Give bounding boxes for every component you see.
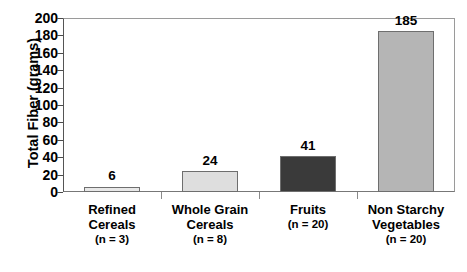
y-tick-label: 60 bbox=[16, 133, 58, 147]
y-tick-mark bbox=[57, 192, 63, 193]
bar-group: 41 bbox=[259, 18, 357, 192]
x-tick-mark bbox=[161, 192, 162, 199]
bar-value-label: 41 bbox=[300, 139, 315, 153]
bar-value-label: 24 bbox=[202, 154, 217, 168]
y-tick-mark bbox=[57, 18, 63, 19]
y-tick-mark bbox=[57, 88, 63, 89]
x-axis-category-name: Fruits bbox=[259, 202, 357, 217]
y-tick-label: 160 bbox=[16, 46, 58, 60]
bar-group: 185 bbox=[357, 18, 455, 192]
y-tick-label: 120 bbox=[16, 81, 58, 95]
y-tick-label: 80 bbox=[16, 115, 58, 129]
x-axis-category-count: (n = 3) bbox=[63, 232, 161, 247]
x-axis-category-name: Vegetables bbox=[357, 217, 455, 232]
bar[interactable] bbox=[84, 187, 140, 192]
bar-value-label: 185 bbox=[395, 14, 418, 28]
x-axis-category-count: (n = 8) bbox=[161, 232, 259, 247]
y-tick-mark bbox=[57, 157, 63, 158]
x-axis-category-labels: RefinedCereals(n = 3)Whole GrainCereals(… bbox=[63, 202, 455, 270]
bar[interactable] bbox=[378, 31, 434, 192]
y-tick-mark bbox=[57, 122, 63, 123]
x-axis-category-count: (n = 20) bbox=[357, 232, 455, 247]
x-axis-category: Whole GrainCereals(n = 8) bbox=[161, 202, 259, 247]
x-axis-category-name: Non Starchy bbox=[357, 202, 455, 217]
x-axis-category-count: (n = 20) bbox=[259, 217, 357, 232]
y-tick-label: 180 bbox=[16, 28, 58, 42]
y-tick-mark bbox=[57, 53, 63, 54]
bar-group: 24 bbox=[161, 18, 259, 192]
y-tick-label: 0 bbox=[16, 185, 58, 199]
bar-group: 6 bbox=[63, 18, 161, 192]
y-tick-label: 200 bbox=[16, 11, 58, 25]
y-tick-label: 40 bbox=[16, 150, 58, 164]
x-axis-category: RefinedCereals(n = 3) bbox=[63, 202, 161, 247]
x-tick-mark bbox=[357, 192, 358, 199]
bar[interactable] bbox=[182, 171, 238, 192]
y-tick-mark bbox=[57, 175, 63, 176]
bars-layer: 62441185 bbox=[63, 18, 455, 192]
y-tick-mark bbox=[57, 35, 63, 36]
bar[interactable] bbox=[280, 156, 336, 192]
fiber-bar-chart: Total Fiber (grams) 20018016014012010080… bbox=[0, 0, 467, 272]
x-tick-mark bbox=[259, 192, 260, 199]
x-axis-category-name: Cereals bbox=[63, 217, 161, 232]
x-axis-category-name: Refined bbox=[63, 202, 161, 217]
x-axis-category: Fruits(n = 20) bbox=[259, 202, 357, 232]
y-tick-label: 100 bbox=[16, 98, 58, 112]
x-axis-category-name: Whole Grain bbox=[161, 202, 259, 217]
x-axis-category-name: Cereals bbox=[161, 217, 259, 232]
y-tick-mark bbox=[57, 70, 63, 71]
y-tick-mark bbox=[57, 105, 63, 106]
x-axis-category: Non StarchyVegetables(n = 20) bbox=[357, 202, 455, 247]
y-axis-tick-labels: 200180160140120100806040200 bbox=[16, 18, 58, 192]
y-tick-label: 140 bbox=[16, 63, 58, 77]
bar-value-label: 6 bbox=[108, 169, 116, 183]
y-tick-mark bbox=[57, 140, 63, 141]
y-tick-label: 20 bbox=[16, 168, 58, 182]
